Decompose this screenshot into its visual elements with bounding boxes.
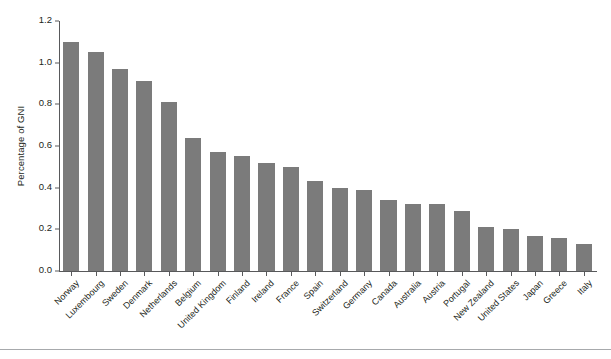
bar [307,181,323,271]
x-tick-mark [364,272,365,276]
x-tick-mark [389,272,390,276]
x-tick-mark [584,272,585,276]
x-tick-mark [413,272,414,276]
x-tick-mark [218,272,219,276]
bar [283,167,299,271]
x-tick-mark [511,272,512,276]
bar [136,81,152,271]
x-tick-mark [193,272,194,276]
bar-series [59,21,596,271]
x-tick-mark [96,272,97,276]
x-tick-mark [266,272,267,276]
x-tick-mark [437,272,438,276]
x-tick-mark [340,272,341,276]
x-tick-mark [120,272,121,276]
y-tick-label: 1.0 [39,56,52,67]
x-tick-mark [559,272,560,276]
bar [112,69,128,271]
y-tick-label: 0.8 [39,97,52,108]
bar [258,163,274,271]
x-tick-mark [315,272,316,276]
x-tick-mark [535,272,536,276]
y-axis-title: Percentage of GNI [14,21,28,271]
bar-chart-figure: Percentage of GNI 0.00.20.40.60.81.01.2 … [0,0,611,359]
y-tick-label: 0.6 [39,139,52,150]
x-tick-mark [144,272,145,276]
x-tick-mark [169,272,170,276]
y-tick-label: 0.2 [39,222,52,233]
x-tick-label-text: Italy [575,278,594,297]
x-tick-mark [462,272,463,276]
y-tick-label: 1.2 [39,14,52,25]
x-tick-mark [291,272,292,276]
x-tick-mark [71,272,72,276]
y-tick-label: 0.0 [39,264,52,275]
x-tick-mark [486,272,487,276]
bar [88,52,104,271]
bar [161,102,177,271]
bar [210,152,226,271]
bar [63,42,79,271]
x-tick-mark [242,272,243,276]
bottom-divider [0,349,611,350]
y-tick-label: 0.4 [39,181,52,192]
bar [332,188,348,271]
